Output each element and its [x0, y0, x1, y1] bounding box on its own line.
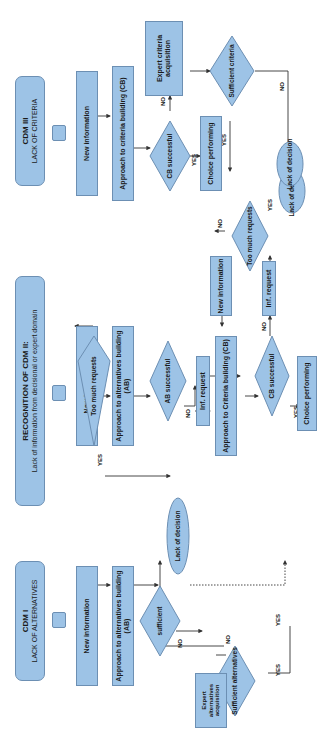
cdm3-cb-text: CB successful — [166, 133, 173, 178]
flowchart-canvas: NO NO YES YES NO YES NO YES NO YES NO YE… — [0, 0, 320, 736]
cdm3-choice-performing: Choice performing — [200, 116, 222, 191]
cdm3-lack-text: Lack of decision — [286, 139, 293, 190]
cdm3-sc-text: Sufficient criteria — [228, 44, 235, 97]
cdm3-expert-criteria: Expert criteria acquisition — [145, 21, 183, 96]
cdm3-diamonds: CB successful Sufficient criteria Lack o… — [0, 0, 320, 736]
